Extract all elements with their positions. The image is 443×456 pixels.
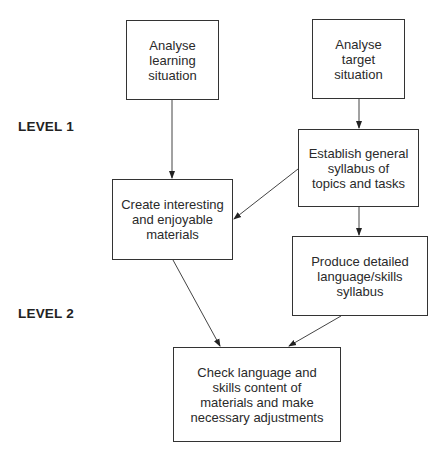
- node-create-materials: Create interesting and enjoyable materia…: [112, 179, 233, 260]
- level-2-label: LEVEL 2: [18, 306, 74, 321]
- node-label: Establish general syllabus of topics and…: [309, 146, 409, 191]
- node-label: Analyse target situation: [334, 37, 382, 82]
- node-label: Analyse learning situation: [148, 38, 196, 83]
- arrow-establish-to-materials: [234, 169, 298, 219]
- node-analyse-learning-situation: Analyse learning situation: [126, 20, 219, 100]
- node-analyse-target-situation: Analyse target situation: [312, 19, 405, 99]
- level-1-label: LEVEL 1: [18, 119, 74, 134]
- arrow-produce-to-check: [289, 316, 341, 346]
- node-label: Create interesting and enjoyable materia…: [121, 197, 224, 242]
- arrow-materials-to-check: [173, 260, 220, 346]
- node-check-content: Check language and skills content of mat…: [173, 347, 341, 442]
- node-produce-detailed-syllabus: Produce detailed language/skills syllabu…: [292, 236, 428, 316]
- node-establish-general-syllabus: Establish general syllabus of topics and…: [298, 129, 419, 207]
- node-label: Produce detailed language/skills syllabu…: [311, 254, 409, 299]
- node-label: Check language and skills content of mat…: [191, 365, 324, 425]
